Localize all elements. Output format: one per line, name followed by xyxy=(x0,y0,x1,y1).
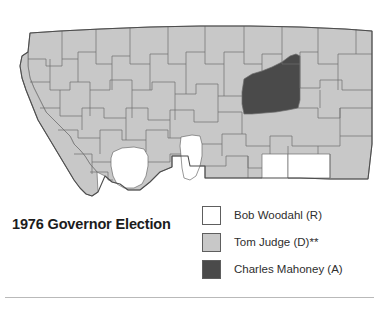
legend-swatch-mahoney xyxy=(202,260,221,279)
legend-item-mahoney[interactable]: Charles Mahoney (A) xyxy=(202,256,377,283)
legend-label-mahoney: Charles Mahoney (A) xyxy=(234,264,343,276)
legend-label-woodahl: Bob Woodahl (R) xyxy=(234,210,322,222)
legend-item-woodahl[interactable]: Bob Woodahl (R) xyxy=(202,202,377,229)
page-title: 1976 Governor Election xyxy=(12,216,171,232)
election-map-figure: 1976 Governor Election Bob Woodahl (R) T… xyxy=(0,0,379,309)
legend-label-judge: Tom Judge (D)** xyxy=(234,237,318,249)
county-woodahl-central xyxy=(180,135,202,180)
county-woodahl-east xyxy=(288,154,330,178)
county-fills xyxy=(20,26,372,196)
montana-county-map-svg xyxy=(0,4,379,204)
legend: Bob Woodahl (R) Tom Judge (D)** Charles … xyxy=(202,202,377,283)
legend-item-judge[interactable]: Tom Judge (D)** xyxy=(202,229,377,256)
county-woodahl-southwest xyxy=(111,147,148,188)
map-container xyxy=(0,4,379,204)
legend-swatch-woodahl xyxy=(202,206,221,225)
legend-swatch-judge xyxy=(202,233,221,252)
bottom-divider xyxy=(5,297,374,298)
